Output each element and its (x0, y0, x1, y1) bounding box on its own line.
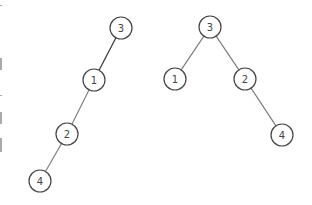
left-edge-fragments (0, 5, 2, 152)
node-label: 1 (172, 74, 178, 85)
tree-node: 4 (271, 124, 293, 146)
tree-node: 2 (56, 123, 78, 145)
tree-node: 1 (164, 68, 186, 90)
tree-node: 4 (29, 170, 51, 192)
tree-node: 1 (83, 69, 105, 91)
tree-diagram: 31243124 (0, 0, 312, 205)
node-label: 4 (37, 176, 43, 187)
tree-node: 2 (234, 68, 256, 90)
nodes: 31243124 (29, 16, 293, 192)
edge-R3-R1 (181, 36, 204, 70)
tree-node: 3 (199, 16, 221, 38)
node-label: 2 (242, 74, 248, 85)
edges (45, 36, 275, 171)
edge-R3-R2 (216, 36, 239, 70)
node-label: 2 (64, 129, 70, 140)
node-label: 3 (118, 23, 124, 34)
tree-node: 3 (110, 17, 132, 39)
edge-L3-L1 (99, 38, 116, 70)
node-label: 3 (207, 22, 213, 33)
node-label: 4 (279, 130, 285, 141)
edge-L1-L2 (72, 90, 89, 124)
edge-L2-L4 (45, 144, 61, 172)
node-label: 1 (91, 75, 97, 86)
edge-R2-R4 (251, 88, 276, 126)
